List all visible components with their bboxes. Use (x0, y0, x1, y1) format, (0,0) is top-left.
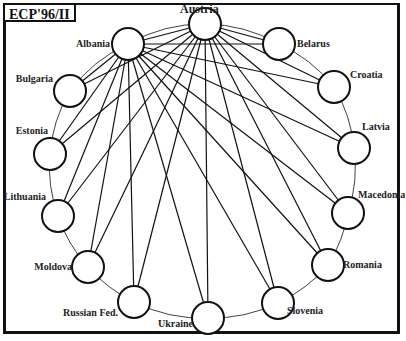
label-lithuania: Lithuania (4, 191, 46, 202)
node-croatia (318, 71, 350, 103)
edge-albania-moldova (88, 44, 128, 267)
edge-albania-croatia (128, 44, 334, 87)
label-romania: Romania (343, 259, 382, 270)
node-belarus (263, 28, 295, 60)
edge-austria-slovenia (205, 24, 278, 303)
node-moldova (72, 251, 104, 283)
label-slovenia: Slovenia (287, 305, 323, 316)
edge-albania-lithuania (58, 44, 128, 216)
node-romania (312, 249, 344, 281)
label-belarus: Belarus (297, 38, 330, 49)
label-austria: Austria (180, 2, 219, 16)
label-ukraine: Ukraine (158, 318, 194, 329)
network-diagram: AustriaBelarusCroatiaLatviaMacedoniaRoma… (0, 0, 406, 341)
node-russian-fed (118, 286, 150, 318)
edge-austria-romania (205, 24, 328, 265)
label-moldova: Moldova (34, 261, 72, 272)
label-croatia: Croatia (350, 69, 383, 80)
label-albania: Albania (76, 38, 110, 49)
label-latvia: Latvia (362, 121, 390, 132)
label-bulgaria: Bulgaria (16, 73, 53, 84)
node-macedonia (332, 197, 364, 229)
edge-albania-romania (128, 44, 328, 265)
node-latvia (338, 132, 370, 164)
node-albania (112, 28, 144, 60)
node-lithuania (42, 200, 74, 232)
node-ukraine (192, 302, 224, 334)
edge-austria-russian-fed (134, 24, 205, 302)
label-russian-fed: Russian Fed. (63, 307, 119, 318)
edge-albania-slovenia (128, 44, 278, 303)
label-macedonia: Macedonia (358, 189, 405, 200)
country-labels: AustriaBelarusCroatiaLatviaMacedoniaRoma… (4, 2, 405, 329)
edge-austria-ukraine (205, 24, 208, 318)
edge-albania-macedonia (128, 44, 348, 213)
label-estonia: Estonia (16, 125, 48, 136)
node-bulgaria (54, 75, 86, 107)
node-estonia (34, 138, 66, 170)
